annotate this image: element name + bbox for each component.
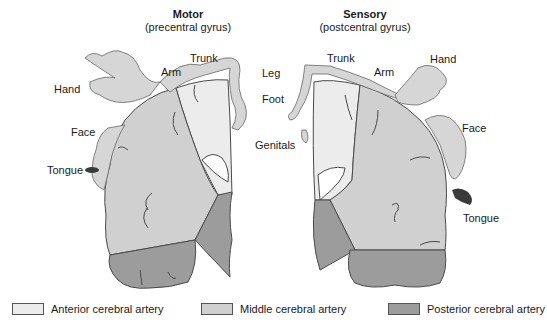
legend-posterior: Posterior cerebral artery bbox=[388, 302, 545, 316]
legend-swatch-middle bbox=[201, 303, 233, 315]
sensory-label-genitals: Genitals bbox=[255, 139, 295, 151]
motor-hand-shape bbox=[85, 51, 160, 103]
sensory-label-hand: Hand bbox=[430, 53, 456, 65]
motor-label-arm: Arm bbox=[161, 66, 181, 78]
sensory-tongue-shape bbox=[452, 188, 472, 205]
sensory-label-tongue: Tongue bbox=[463, 212, 499, 224]
motor-label-face: Face bbox=[71, 126, 95, 138]
sensory-hemisphere bbox=[313, 81, 446, 288]
sensory-label-foot: Foot bbox=[262, 93, 284, 105]
sensory-posterior-bottom bbox=[348, 250, 445, 287]
legend-swatch-anterior bbox=[12, 303, 44, 315]
legend-swatch-posterior bbox=[388, 303, 420, 315]
legend-anterior: Anterior cerebral artery bbox=[12, 302, 164, 316]
motor-label-trunk: Trunk bbox=[190, 52, 218, 64]
legend-label-anterior: Anterior cerebral artery bbox=[51, 303, 164, 315]
motor-label-tongue: Tongue bbox=[47, 164, 83, 176]
motor-tongue-shape bbox=[85, 167, 99, 173]
sensory-label-arm: Arm bbox=[374, 66, 394, 78]
sensory-label-trunk: Trunk bbox=[327, 52, 355, 64]
homunculus-diagram bbox=[0, 0, 547, 325]
sensory-hand-shape bbox=[395, 65, 446, 105]
legend-label-posterior: Posterior cerebral artery bbox=[427, 303, 545, 315]
sensory-genitals-shape bbox=[302, 130, 309, 143]
sensory-label-face: Face bbox=[462, 122, 486, 134]
legend-middle: Middle cerebral artery bbox=[201, 302, 346, 316]
motor-hemisphere bbox=[105, 80, 232, 289]
motor-label-hand: Hand bbox=[54, 83, 80, 95]
sensory-label-leg: Leg bbox=[262, 67, 280, 79]
legend-label-middle: Middle cerebral artery bbox=[240, 303, 346, 315]
